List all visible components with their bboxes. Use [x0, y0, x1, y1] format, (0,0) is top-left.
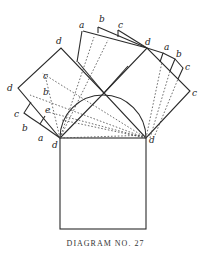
dashed-line [48, 112, 146, 138]
fan-line-a [83, 31, 147, 48]
label-tab-b: b [22, 123, 28, 133]
label-top-b: b [99, 14, 105, 24]
label-top-c: c [118, 20, 123, 30]
label-base-left-d: d [52, 140, 58, 150]
diagonal-line [78, 62, 104, 93]
label-tab-a: a [38, 133, 43, 143]
label-right-c: c [192, 88, 197, 98]
label-right-tab-c: c [185, 62, 190, 72]
label-tab-c: c [14, 109, 19, 119]
label-inner-c: c [43, 71, 48, 81]
label-right-tab-b: b [176, 49, 182, 59]
tab-line [77, 31, 82, 62]
label-inner-b: b [43, 87, 49, 97]
diagonal-line [104, 66, 128, 93]
left-square [18, 48, 104, 138]
label-right-tab-a: a [164, 42, 169, 52]
label-top-a: a [79, 20, 84, 30]
diagram-27: d d c b e c b a a b c d a b c c d d [0, 0, 211, 256]
dashed-line [146, 62, 162, 138]
diagram-caption: DIAGRAM NO. 27 [0, 239, 211, 248]
bottom-square [60, 138, 146, 229]
fan-line-c [118, 30, 147, 48]
label-left-top-d: d [56, 36, 62, 46]
label-inner-e: e [45, 105, 50, 115]
label-left-d: d [7, 83, 13, 93]
right-tab-b [163, 53, 175, 71]
right-tab-c [175, 59, 183, 79]
label-right-top-d: d [145, 37, 151, 47]
label-base-right-d: d [149, 135, 155, 145]
semicircle [60, 95, 146, 138]
left-tab-c [24, 102, 31, 118]
